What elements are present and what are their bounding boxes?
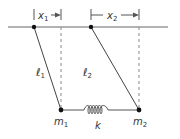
string-2 [91, 27, 139, 110]
coupled-pendulum-diagram: x1 x2 ℓ1 ℓ2 m1 m2 k [0, 0, 180, 139]
label-l1: ℓ1 [35, 66, 45, 80]
label-k: k [95, 120, 102, 131]
label-m2: m2 [133, 116, 147, 129]
pivot-2 [89, 25, 93, 29]
mass-2 [137, 108, 142, 113]
label-x2: x2 [106, 10, 117, 23]
label-l2: ℓ2 [82, 66, 92, 80]
label-m1: m1 [54, 116, 68, 129]
pivot-1 [32, 25, 36, 29]
mass-1 [59, 108, 64, 113]
spring-k [61, 106, 139, 114]
label-x1: x1 [37, 10, 48, 23]
